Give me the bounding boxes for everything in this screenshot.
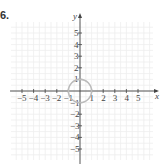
- y-tick-label: 4: [74, 40, 79, 50]
- x-tick-label: −3: [40, 93, 50, 103]
- y-tick-label: 3: [74, 51, 79, 61]
- y-axis-arrow-icon: [78, 13, 82, 18]
- y-tick-label: 2: [74, 63, 79, 73]
- x-tick-label: 5: [136, 93, 141, 103]
- y-tick-label: 5: [74, 28, 79, 38]
- coordinate-plane: xy−5−4−3−2−11234554321−1−2−3−4−5: [0, 0, 163, 168]
- x-tick-label: 2: [101, 93, 106, 103]
- x-tick-label: 3: [113, 93, 118, 103]
- x-tick-label: 4: [124, 93, 129, 103]
- y-axis-label: y: [72, 11, 77, 21]
- x-tick-label: −5: [17, 93, 27, 103]
- y-tick-label: −3: [70, 121, 80, 131]
- x-tick-label: −4: [29, 93, 39, 103]
- x-axis-label: x: [154, 91, 159, 101]
- x-tick-label: −2: [52, 93, 62, 103]
- y-tick-label: −5: [70, 144, 80, 154]
- y-tick-label: −4: [70, 132, 80, 142]
- y-tick-label: −2: [70, 109, 80, 119]
